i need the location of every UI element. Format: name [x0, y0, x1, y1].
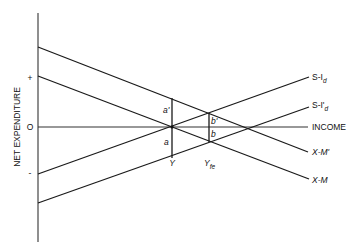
segment-a-prime: a' [163, 105, 170, 115]
segment-b-prime: b' [211, 116, 218, 126]
label-yfe: Yfe [204, 158, 215, 170]
curve-s-i-prime-d [38, 107, 309, 203]
curve-x-m-prime [38, 47, 308, 152]
label-x-m-prime: X-M' [311, 147, 330, 157]
label-x-m: X-M [311, 175, 329, 185]
zero-sign: O [27, 122, 34, 132]
label-s-i-prime-d: S-I'd [312, 100, 328, 112]
y-axis-label: NET EXPENDITURE [12, 87, 22, 167]
segment-a: a [164, 137, 169, 147]
diagram-canvas: NET EXPENDITURE + O - S-Id S-I'd INCOME … [0, 0, 359, 252]
equilibrium-point [170, 125, 173, 128]
label-income: INCOME [312, 122, 346, 132]
plus-sign: + [28, 73, 33, 83]
segment-b: b [211, 129, 216, 139]
label-s-id: S-Id [312, 72, 327, 84]
minus-sign: - [29, 168, 32, 178]
label-y: Y [169, 158, 176, 168]
